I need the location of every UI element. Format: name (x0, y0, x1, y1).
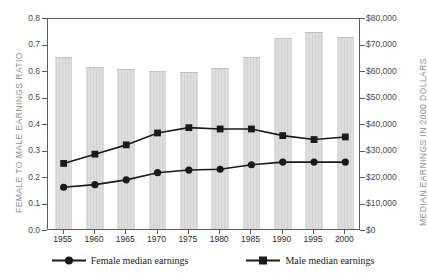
y-axis-right-tick-label: $30,000 (366, 145, 420, 155)
line-series-layer (48, 19, 360, 230)
x-axis-tick-label: 1980 (202, 234, 236, 244)
square-marker-icon (246, 255, 280, 266)
tick-mark (63, 230, 64, 234)
y-axis-left-tick-label: 0.4 (14, 119, 40, 129)
legend-item-female-median-earnings[interactable]: Female median earnings (52, 255, 189, 266)
data-point-square (342, 134, 349, 141)
chart-legend: Female median earnings Male median earni… (0, 249, 426, 271)
x-axis-tick-label: 1995 (296, 234, 330, 244)
tick-mark (219, 230, 220, 234)
data-point-circle (91, 181, 98, 188)
tick-mark (313, 230, 314, 234)
data-point-square (92, 151, 99, 158)
x-axis-tick-label: 1955 (46, 234, 80, 244)
male-median-earnings-line (64, 128, 346, 164)
tick-mark (360, 230, 365, 231)
x-axis-tick-label: 2000 (327, 234, 361, 244)
tick-mark (344, 230, 345, 234)
data-point-square (311, 136, 318, 143)
tick-mark (360, 151, 365, 152)
y-axis-right-tick-label: $60,000 (366, 66, 420, 76)
data-point-square (248, 126, 255, 133)
tick-mark (250, 230, 251, 234)
data-point-circle (123, 176, 130, 183)
tick-mark (360, 98, 365, 99)
tick-mark (360, 71, 365, 72)
y-axis-left-tick-label: 0.3 (14, 145, 40, 155)
y-axis-left-title: FEMALE TO MALE EARNINGS RATIO (14, 52, 24, 213)
y-axis-left-tick-label: 0.6 (14, 66, 40, 76)
legend-label-male: Male median earnings (285, 255, 374, 266)
tick-mark (360, 204, 365, 205)
y-axis-left-tick-label: 0.5 (14, 92, 40, 102)
tick-mark (360, 18, 365, 19)
x-axis-tick-label: 1990 (265, 234, 299, 244)
tick-mark (282, 230, 283, 234)
y-axis-left-tick-label: 0.1 (14, 198, 40, 208)
tick-mark (157, 230, 158, 234)
legend-label-female: Female median earnings (91, 255, 189, 266)
data-point-square (185, 124, 192, 131)
tick-mark (125, 230, 126, 234)
x-axis-tick-label: 1970 (140, 234, 174, 244)
y-axis-right-tick-label: $20,000 (366, 172, 420, 182)
data-point-square (217, 126, 224, 133)
tick-mark (360, 124, 365, 125)
x-axis-tick-label: 1960 (77, 234, 111, 244)
data-point-circle (154, 169, 161, 176)
y-axis-left-tick-label: 0.2 (14, 172, 40, 182)
data-point-circle (248, 161, 255, 168)
tick-mark (42, 230, 47, 231)
data-point-circle (217, 166, 224, 173)
y-axis-right-tick-label: $50,000 (366, 92, 420, 102)
tick-mark (360, 45, 365, 46)
legend-item-male-median-earnings[interactable]: Male median earnings (246, 255, 374, 266)
male-median-earnings-markers (60, 124, 349, 167)
tick-mark (94, 230, 95, 234)
tick-mark (360, 177, 365, 178)
tick-mark (188, 230, 189, 234)
circle-marker-icon (52, 255, 86, 266)
y-axis-right-tick-label: $40,000 (366, 119, 420, 129)
female-median-earnings-markers (60, 159, 349, 191)
data-point-square (279, 132, 286, 139)
y-axis-left-tick-label: 0.0 (14, 225, 40, 235)
y-axis-right-tick-label: $0 (366, 225, 420, 235)
chart-title-strip (0, 0, 426, 9)
y-axis-right-tick-label: $80,000 (366, 13, 420, 23)
data-point-circle (60, 184, 67, 191)
data-point-square (154, 130, 161, 137)
x-axis-tick-label: 1985 (233, 234, 267, 244)
x-axis-tick-label: 1975 (171, 234, 205, 244)
data-point-square (60, 160, 67, 167)
data-point-circle (185, 166, 192, 173)
data-point-circle (342, 159, 349, 166)
x-axis-tick-label: 1965 (108, 234, 142, 244)
data-point-circle (279, 159, 286, 166)
female-median-earnings-line (64, 162, 346, 187)
data-point-square (123, 141, 130, 148)
y-axis-left-tick-label: 0.7 (14, 39, 40, 49)
data-point-circle (310, 159, 317, 166)
y-axis-left-tick-label: 0.8 (14, 13, 40, 23)
y-axis-right-tick-label: $70,000 (366, 39, 420, 49)
plot-area (47, 18, 360, 230)
y-axis-right-tick-label: $10,000 (366, 198, 420, 208)
